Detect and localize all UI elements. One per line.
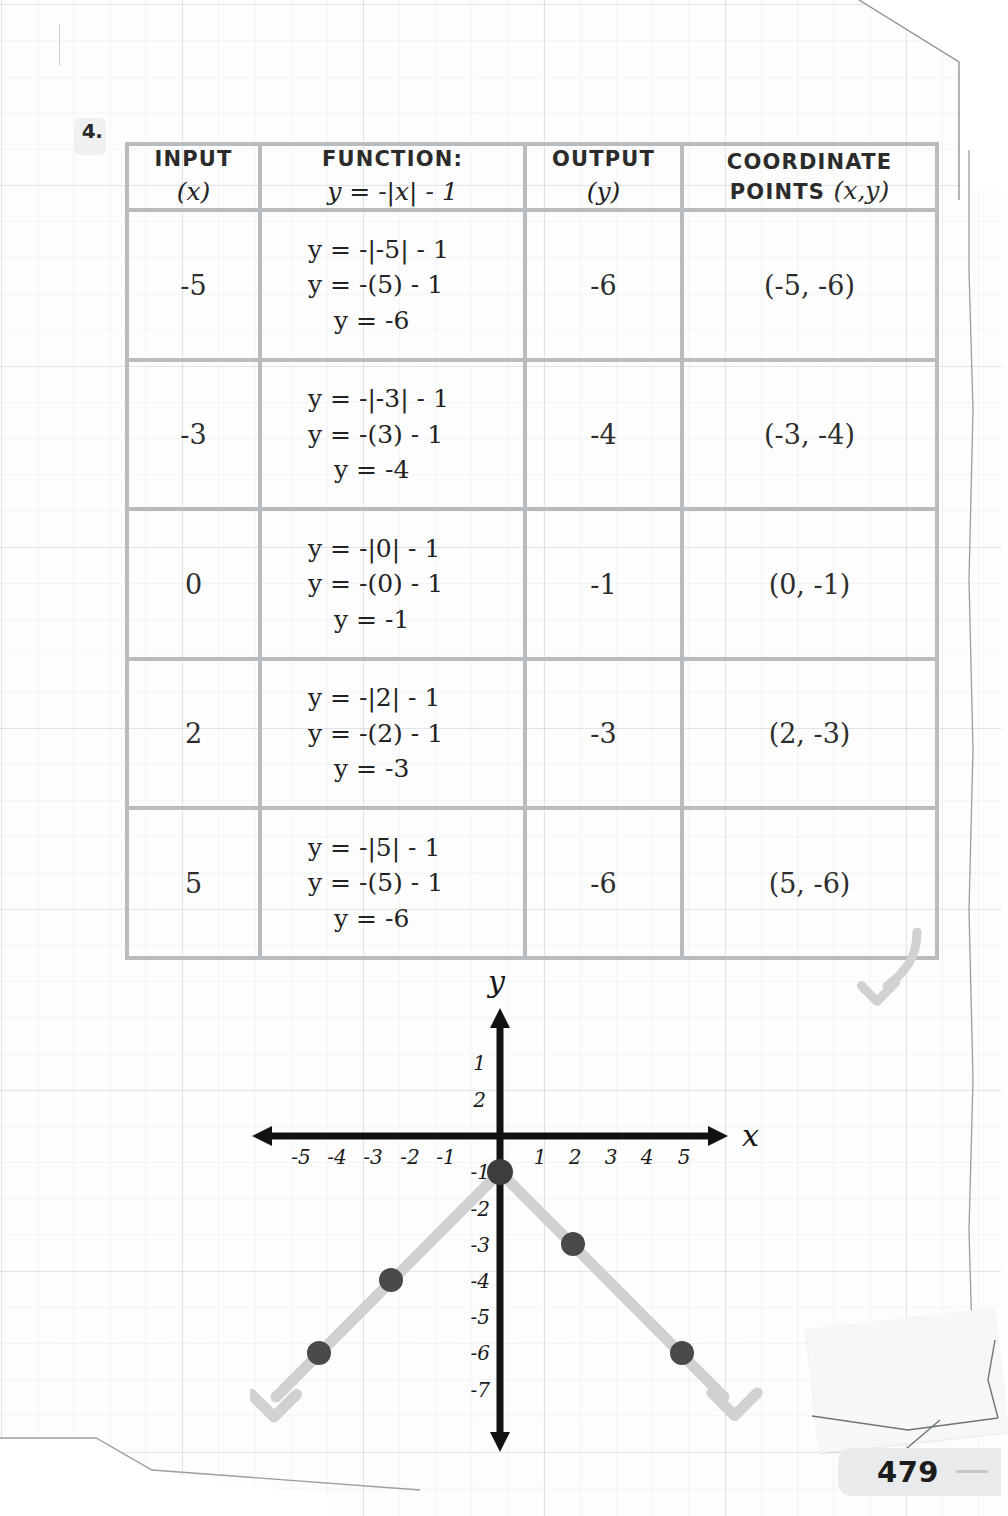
y-tick-label: -7 <box>471 1378 491 1402</box>
paper-scrap-edge <box>790 1300 1005 1465</box>
plot-point <box>379 1268 403 1292</box>
header-input: INPUT (x) <box>127 144 260 210</box>
header-output-variable: (y) <box>527 176 680 209</box>
work-line: y = -4 <box>308 452 523 488</box>
header-output: OUTPUT (y) <box>525 144 682 210</box>
graph-axes <box>252 1008 728 1452</box>
curved-arrow-icon <box>855 928 945 1018</box>
y-tick-label: -5 <box>471 1305 490 1329</box>
header-input-variable: (x) <box>129 176 258 209</box>
table-row: 2 y = -|2| - 1 y = -(2) - 1 y = -3 -3 (2… <box>127 659 937 809</box>
header-coordinate-points-word: POINTS <box>730 180 834 204</box>
cell-function-work: y = -|2| - 1 y = -(2) - 1 y = -3 <box>260 659 525 809</box>
y-tick-label: -6 <box>471 1341 491 1365</box>
work-line: y = -6 <box>308 303 523 339</box>
footer-dash <box>956 1470 988 1473</box>
cell-output: -6 <box>525 210 682 360</box>
work-lines: y = -|-5| - 1 y = -(5) - 1 y = -6 <box>262 232 523 339</box>
table-row: 0 y = -|0| - 1 y = -(0) - 1 y = -1 -1 (0… <box>127 509 937 659</box>
x-tick-label: 4 <box>640 1145 654 1169</box>
work-line: y = -1 <box>308 602 523 638</box>
y-axis-label: y <box>486 964 506 999</box>
x-tick-label: -1 <box>436 1145 455 1169</box>
x-tick-label: -2 <box>400 1145 419 1169</box>
problem-number: 4. <box>77 119 107 143</box>
y-tick-labels: 2 1 -1 -2 -3 -4 -5 -6 -7 <box>471 1051 491 1402</box>
work-line: y = -3 <box>308 751 523 787</box>
y-tick-label: -3 <box>471 1233 490 1257</box>
header-coordinate-points-vars: (x,y) <box>834 176 890 205</box>
header-coordinate-points: POINTS (x,y) <box>730 180 889 204</box>
y-tick-label: -2 <box>471 1197 490 1221</box>
margin-rule-top <box>59 24 60 66</box>
header-function-equation: y = -|x| - 1 <box>262 176 523 209</box>
x-tick-label: -4 <box>327 1145 346 1169</box>
cell-input: 2 <box>127 659 260 809</box>
cell-function-work: y = -|0| - 1 y = -(0) - 1 y = -1 <box>260 509 525 659</box>
cell-output: -3 <box>525 659 682 809</box>
work-line: y = -|0| - 1 <box>308 531 523 567</box>
y-tick-label: -4 <box>471 1269 490 1293</box>
table-row: -3 y = -|-3| - 1 y = -(3) - 1 y = -4 -4 … <box>127 360 937 510</box>
cell-output: -6 <box>525 808 682 958</box>
cell-function-work: y = -|-3| - 1 y = -(3) - 1 y = -4 <box>260 360 525 510</box>
work-line: y = -6 <box>308 901 523 937</box>
cell-coordinate-point: (-5, -6) <box>682 210 937 360</box>
cell-output: -4 <box>525 360 682 510</box>
work-line: y = -(3) - 1 <box>308 417 523 453</box>
work-lines: y = -|2| - 1 y = -(2) - 1 y = -3 <box>262 680 523 787</box>
plot-point <box>307 1341 331 1365</box>
function-table: INPUT (x) FUNCTION: y = -|x| - 1 OUTPUT … <box>125 142 939 960</box>
work-line: y = -|-3| - 1 <box>308 381 523 417</box>
y-tick-label: 1 <box>473 1051 486 1075</box>
cell-coordinate-point: (2, -3) <box>682 659 937 809</box>
coordinate-graph: x y -5 -4 -3 -2 -1 1 2 3 4 5 2 1 -1 -2 -… <box>250 960 790 1480</box>
work-line: y = -(2) - 1 <box>308 716 523 752</box>
work-line: y = -|-5| - 1 <box>308 232 523 268</box>
header-coordinate-label: COORDINATE <box>684 149 935 176</box>
graph-function-line <box>251 1172 757 1417</box>
plot-point <box>487 1159 513 1185</box>
cell-coordinate-point: (-3, -4) <box>682 360 937 510</box>
work-lines: y = -|0| - 1 y = -(0) - 1 y = -1 <box>262 531 523 638</box>
plot-point <box>670 1341 694 1365</box>
function-table-container: INPUT (x) FUNCTION: y = -|x| - 1 OUTPUT … <box>125 142 935 960</box>
table-header-row: INPUT (x) FUNCTION: y = -|x| - 1 OUTPUT … <box>127 144 937 210</box>
work-lines: y = -|5| - 1 y = -(5) - 1 y = -6 <box>262 830 523 937</box>
cell-coordinate-point: (0, -1) <box>682 509 937 659</box>
x-tick-label: 5 <box>678 1145 691 1169</box>
cell-input: 0 <box>127 509 260 659</box>
work-line: y = -|2| - 1 <box>308 680 523 716</box>
work-line: y = -(5) - 1 <box>308 267 523 303</box>
cell-input: -3 <box>127 360 260 510</box>
header-input-label: INPUT <box>129 146 258 173</box>
x-tick-label: 2 <box>568 1145 582 1169</box>
header-function-label: FUNCTION: <box>262 146 523 173</box>
work-line: y = -|5| - 1 <box>308 830 523 866</box>
work-lines: y = -|-3| - 1 y = -(3) - 1 y = -4 <box>262 381 523 488</box>
x-axis-label: x <box>742 1118 759 1153</box>
cell-function-work: y = -|-5| - 1 y = -(5) - 1 y = -6 <box>260 210 525 360</box>
cell-function-work: y = -|5| - 1 y = -(5) - 1 y = -6 <box>260 808 525 958</box>
plot-point <box>561 1232 585 1256</box>
cell-input: -5 <box>127 210 260 360</box>
work-line: y = -(5) - 1 <box>308 865 523 901</box>
cell-input: 5 <box>127 808 260 958</box>
cell-output: -1 <box>525 509 682 659</box>
header-coordinate: COORDINATE POINTS (x,y) <box>682 144 937 210</box>
x-tick-label: 1 <box>534 1145 547 1169</box>
table-row: 5 y = -|5| - 1 y = -(5) - 1 y = -6 -6 (5… <box>127 808 937 958</box>
table-row: -5 y = -|-5| - 1 y = -(5) - 1 y = -6 -6 … <box>127 210 937 360</box>
header-function: FUNCTION: y = -|x| - 1 <box>260 144 525 210</box>
x-tick-label: -5 <box>291 1145 310 1169</box>
y-tick-label: 2 <box>472 1088 486 1112</box>
work-line: y = -(0) - 1 <box>308 566 523 602</box>
x-tick-label: -3 <box>363 1145 382 1169</box>
x-tick-label: 3 <box>605 1145 618 1169</box>
header-output-label: OUTPUT <box>527 146 680 173</box>
